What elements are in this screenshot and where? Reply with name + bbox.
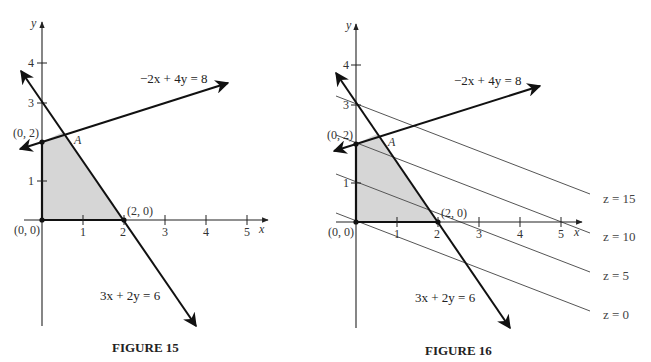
figure-caption: FIGURE 16 [425,343,492,358]
equation-label-lower: 3x + 2y = 6 [415,290,476,305]
point-label-0-0: (0, 0) [14,223,40,237]
figure-15: 1 2 3 4 5 x 1 3 4 y (0, 2) A (2, 0) (0, … [13,16,268,355]
y-tick-label: 3 [28,96,34,110]
vertex-dot [353,141,358,146]
point-label-0-0: (0, 0) [328,225,354,239]
point-label-0-2: (0, 2) [327,128,353,142]
y-tick-label: 4 [28,56,34,70]
x-tick-label: 1 [80,225,86,239]
vertex-dot [39,139,44,144]
x-tick-label: 4 [203,225,209,239]
x-tick-label: 2 [120,225,126,239]
level-label-z0: z = 0 [603,307,629,322]
y-tick-label: 1 [28,174,34,188]
point-label-a: A [73,133,82,147]
x-tick-label: 5 [558,227,564,241]
x-tick-label: 3 [476,227,482,241]
feasible-region [42,132,124,220]
y-tick-label: 3 [343,98,349,112]
vertex-dot [435,219,440,224]
level-label-z5: z = 5 [603,268,629,283]
vertex-dot [353,219,358,224]
figure-caption: FIGURE 15 [112,340,179,355]
y-axis-label: y [345,18,352,32]
x-tick-label: 5 [244,225,250,239]
point-label-a: A [387,135,396,149]
x-tick-label: 2 [434,227,440,241]
equation-label-lower: 3x + 2y = 6 [100,288,161,303]
vertex-dot [39,217,44,222]
x-tick-label: 3 [162,225,168,239]
figures-canvas: 1 2 3 4 5 x 1 3 4 y (0, 2) A (2, 0) (0, … [0,0,651,362]
x-axis-label: x [258,222,265,236]
x-tick-label: 1 [394,227,400,241]
y-tick-label: 1 [343,176,349,190]
figure-16: 1 2 3 4 5 x 1 3 4 y (0, 2) A (2, 0) (0, … [327,18,636,358]
equation-label-upper: −2x + 4y = 8 [140,71,208,86]
y-tick-label: 4 [343,58,349,72]
x-axis-label: x [573,225,580,239]
level-label-z10: z = 10 [603,229,636,244]
point-label-2-0: (2, 0) [127,204,153,218]
vertex-dot [121,217,126,222]
x-tick-label: 4 [517,227,523,241]
y-axis-label: y [30,16,37,30]
level-label-z15: z = 15 [603,191,636,206]
constraint-line-upper [334,86,540,151]
point-label-0-2: (0, 2) [13,126,39,140]
equation-label-upper: −2x + 4y = 8 [454,73,522,88]
point-label-2-0: (2, 0) [441,206,467,220]
